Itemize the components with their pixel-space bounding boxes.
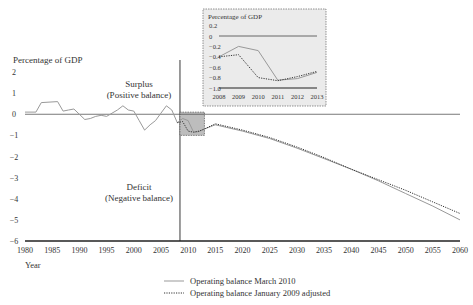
legend-item-march-2010: Operating balance March 2010	[190, 276, 296, 286]
x-tick-label: 2055	[425, 246, 441, 255]
inset-x-tick-label: 2011	[271, 93, 284, 100]
inset-y-tick-label: −0.6	[209, 64, 222, 71]
inset-x-tick-label: 2012	[291, 93, 304, 100]
inset-chart: Percentage of GDP0.20−0.2−0.4−0.6−0.8−1.…	[203, 9, 326, 106]
y-tick-label: −6	[10, 237, 19, 246]
x-tick-label: 2050	[398, 246, 414, 255]
y-tick-label: 2	[12, 68, 16, 77]
inset-x-tick-label: 2013	[311, 93, 324, 100]
y-tick-label: −5	[10, 216, 19, 225]
inset-x-tick-label: 2008	[213, 93, 226, 100]
x-tick-label: 2000	[126, 246, 142, 255]
x-tick-label: 2015	[207, 246, 223, 255]
y-tick-label: 1	[12, 89, 16, 98]
series-march-2010-line	[25, 102, 460, 220]
y-tick-label: −3	[10, 174, 19, 183]
x-tick-label: 2025	[262, 246, 278, 255]
legend-item-january-2009: Operating balance January 2009 adjusted	[190, 288, 331, 298]
legend: Operating balance March 2010 Operating b…	[164, 276, 331, 298]
x-tick-label: 1985	[44, 246, 60, 255]
surplus-sublabel: (Positive balance)	[107, 90, 172, 100]
x-tick-label: 2030	[289, 246, 305, 255]
main-series	[25, 102, 460, 220]
x-tick-label: 2060	[452, 246, 468, 255]
deficit-label: Deficit	[127, 182, 152, 192]
y-tick-label: −1	[10, 131, 19, 140]
inset-y-tick-label: −0.2	[209, 43, 221, 50]
inset-y-axis-label: Percentage of GDP	[208, 13, 262, 21]
inset-frame	[203, 9, 326, 106]
surplus-label: Surplus	[125, 79, 153, 89]
y-tick-label: −4	[10, 195, 19, 204]
x-tick-label: 2045	[370, 246, 386, 255]
x-tick-label: 1995	[99, 246, 115, 255]
inset-x-tick-label: 2010	[252, 93, 265, 100]
y-tick-label: 0	[12, 110, 16, 119]
inset-x-tick-label: 2009	[232, 93, 245, 100]
inset-y-tick-label: 0.2	[209, 22, 217, 29]
x-tick-label: 2005	[153, 246, 169, 255]
x-axis-label: Year	[25, 260, 41, 270]
x-tick-label: 2010	[180, 246, 196, 255]
line-chart: 1980198519901995200020052010201520202025…	[0, 0, 473, 305]
x-tick-label: 2020	[235, 246, 251, 255]
series-january-2009-line	[177, 122, 460, 214]
inset-y-tick-label: 0	[209, 33, 212, 40]
deficit-sublabel: (Negative balance)	[105, 193, 173, 203]
y-tick-label: −2	[10, 153, 19, 162]
x-tick-label: 1990	[71, 246, 87, 255]
x-tick-label: 1980	[17, 246, 33, 255]
inset-y-tick-label: −0.8	[209, 74, 221, 81]
x-tick-label: 2035	[316, 246, 332, 255]
x-tick-label: 2040	[343, 246, 359, 255]
y-axis-label: Percentage of GDP	[13, 55, 82, 65]
